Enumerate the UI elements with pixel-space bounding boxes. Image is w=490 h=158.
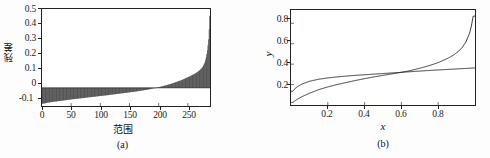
panel-b-ylabel: y xyxy=(262,52,274,57)
panel-b-xtick-2: 0.6 xyxy=(388,109,414,119)
panel-b-xtick-1: 0.4 xyxy=(351,109,377,119)
panel-b-ytick-3: 0.2 xyxy=(266,80,288,90)
figure-container: 0.5 0.4 0.3 0.2 0.1 0 -0.1 0 50 100 150 … xyxy=(0,0,490,158)
curve-curve-1 xyxy=(291,68,475,91)
panel-b-ytickmark-2 xyxy=(287,62,290,63)
panel-b-xlabel: x xyxy=(290,120,476,132)
curve-curve-2 xyxy=(291,16,475,102)
panel-b-xtick-3: 0.8 xyxy=(425,109,451,119)
panel-b-plot-area xyxy=(290,9,476,106)
panel-b-ytick-2: 0.4 xyxy=(266,58,288,68)
panel-b-xtick-0: 0.2 xyxy=(314,109,340,119)
panel-b-ytick-1: 0.6 xyxy=(266,36,288,46)
panel-b-ytick-0: 0.8 xyxy=(266,14,288,24)
panel-b-ytickmark-3 xyxy=(287,84,290,85)
panel-b-ytickmark-0 xyxy=(287,18,290,19)
panel-b: 0.8 0.6 0.4 0.2 0.2 0.4 0.6 0.8 y x (b) xyxy=(0,0,490,158)
panel-b-caption: (b) xyxy=(290,138,476,149)
panel-b-line-chart xyxy=(291,10,475,105)
panel-b-ytickmark-1 xyxy=(287,40,290,41)
